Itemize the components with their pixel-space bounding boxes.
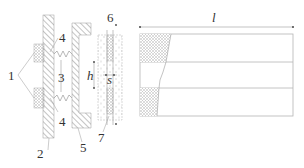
magnet-bottom xyxy=(34,88,44,108)
label-3: 3 xyxy=(58,70,65,85)
label-7: 7 xyxy=(98,130,105,145)
spring-top xyxy=(54,51,72,57)
label-s: s xyxy=(107,72,112,87)
length-view xyxy=(140,34,293,116)
spring-bottom xyxy=(54,95,72,101)
label-l: l xyxy=(212,10,216,25)
label-1: 1 xyxy=(8,68,15,83)
schematic-diagram: 1 4 3 4 2 5 6 7 h s l xyxy=(0,0,304,168)
label-4-top: 4 xyxy=(59,30,66,45)
dimension-l xyxy=(139,26,294,28)
magnet-top xyxy=(34,44,44,62)
label-6: 6 xyxy=(107,10,114,25)
label-h: h xyxy=(87,68,94,83)
base-plate xyxy=(43,15,54,138)
label-2: 2 xyxy=(37,146,44,161)
label-5: 5 xyxy=(80,140,87,155)
label-4-bottom: 4 xyxy=(59,114,66,129)
leader-lines xyxy=(18,38,109,150)
